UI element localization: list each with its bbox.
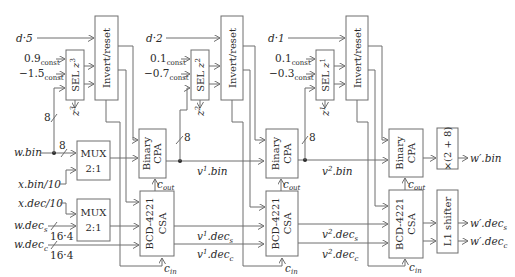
const-0.1b-label: 0.1const	[275, 52, 311, 67]
bus-width-8-label-2: 8	[184, 131, 191, 143]
bus-width-8-label-1: 8	[44, 111, 51, 123]
d5-input-label: d·5	[16, 32, 33, 44]
cpa2-line2: CPA	[282, 142, 293, 163]
inv3-to-csa-wire	[368, 70, 388, 206]
v1-bin-label: v1.bin	[197, 165, 228, 177]
w-dec-s-label: w.decs	[14, 219, 48, 234]
cpa3-line1: Binary	[394, 136, 405, 170]
const-0.1-label: 0.1const	[150, 52, 186, 67]
invert-reset-label-2: Invert/reset	[227, 28, 238, 88]
z1-output-label: z1	[319, 106, 331, 117]
csa1-line1: BCD-4221	[144, 197, 155, 249]
cout-2-label: cout	[283, 178, 301, 192]
cpa1-line2: CPA	[152, 142, 163, 163]
d2-input-label: d·2	[146, 32, 163, 44]
w-prime-bin-label: w′.bin	[470, 152, 502, 164]
csa2-line2: CSA	[282, 212, 293, 235]
mux-top-line2: 2:1	[85, 163, 101, 174]
sel3-feedback-wire	[305, 88, 315, 160]
const-0.9-label: 0.9const	[24, 52, 60, 67]
sel-feedback-wire-1	[54, 88, 65, 136]
mux-top-line1: MUX	[81, 148, 108, 159]
cout-1-label: cout	[157, 178, 175, 192]
w-dec-s-bus: 16·4	[50, 230, 74, 242]
cout-3-label: cout	[408, 178, 426, 192]
sel2-feedback-wire	[180, 88, 190, 122]
cpa3-line2: CPA	[406, 142, 417, 163]
z3-output-label: z3	[69, 105, 81, 117]
csa1-line2: CSA	[157, 212, 168, 235]
mux-top-block	[77, 141, 110, 180]
bus-width-8-label-3: 8	[309, 131, 316, 143]
w-bin-label: w.bin	[14, 146, 42, 158]
invert-reset-label-1: Invert/reset	[101, 28, 112, 88]
cpa1-line1: Binary	[141, 136, 152, 170]
d1-input-label: d·1	[268, 32, 285, 44]
mux-bottom-line1: MUX	[81, 207, 108, 218]
w-prime-decc-label: w′.decc	[470, 235, 508, 250]
v2-bin-label: v2.bin	[322, 165, 353, 177]
sel-z3-label: SEL z3	[69, 58, 81, 92]
invert-reset-label-3: Invert/reset	[352, 28, 363, 88]
cin-2-label: cin	[285, 262, 298, 276]
csa3-line2: CSA	[406, 212, 417, 235]
inv1-to-cpa-wire	[118, 46, 138, 140]
sel-z2-label: SEL z2	[194, 58, 206, 92]
cpa2-line1: Binary	[270, 136, 281, 170]
inv2-to-csa-wire	[243, 70, 265, 207]
circuit-diagram: d·5 0.9const −1.5const SEL z3 z3 Invert/…	[0, 0, 515, 277]
v1-decs-label: v1.decs	[197, 230, 234, 245]
cin-3-label: cin	[409, 261, 422, 275]
x-dec-label: x.dec/10	[18, 197, 63, 209]
x-bin-wire	[60, 170, 76, 184]
v2-decs-label: v2.decs	[322, 228, 359, 243]
csa3-line1: BCD-4221	[394, 198, 405, 250]
w-dec-c-label: w.decc	[14, 238, 48, 253]
l1-shifter-label: L1 shifter	[442, 197, 453, 247]
mux-bottom-block	[77, 199, 110, 241]
csa2-line1: BCD-4221	[270, 197, 281, 249]
inv3-to-cpa-wire	[368, 46, 388, 140]
inv1-to-csa-wire	[118, 70, 139, 202]
z2-output-label: z2	[194, 105, 206, 117]
multiply-2-8-label: ×(2 + 8)	[442, 127, 453, 171]
mux-bottom-line2: 2:1	[85, 222, 101, 233]
column-3: Binary CPA BCD-4221 CSA cout cin ×(2 + 8…	[389, 127, 508, 275]
x-bin-label: x.bin/10	[18, 178, 61, 190]
sel-z1-label: SEL z1	[319, 58, 331, 92]
cin-1-label: cin	[164, 262, 177, 276]
w-dec-c-bus: 16·4	[50, 249, 74, 261]
v1-decc-label: v1.decc	[197, 248, 234, 263]
w-prime-decs-label: w′.decs	[470, 217, 508, 232]
w-bin-bus-width: 8	[59, 139, 66, 151]
inv2-to-cpa-wire	[243, 46, 265, 140]
v2-decc-label: v2.decc	[322, 248, 359, 263]
